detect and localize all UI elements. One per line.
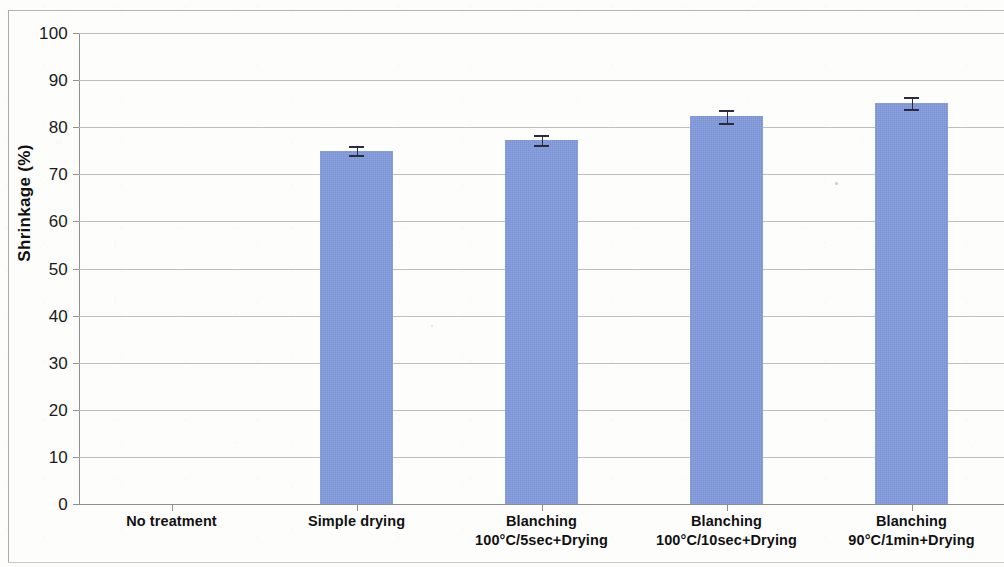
y-axis-tick-label: 60 [6, 213, 68, 230]
y-axis-tick-mark [73, 457, 79, 458]
y-axis-tick-mark [73, 33, 79, 34]
error-bar-cap-lower [534, 145, 549, 147]
y-axis-tick-label: 100 [6, 25, 68, 42]
x-axis-category-labels: No treatmentSimple dryingBlanching100°C/… [79, 512, 1004, 567]
y-axis-tick-label: 40 [6, 307, 68, 324]
error-bar-cap-upper [904, 97, 919, 99]
y-axis-tick-mark [73, 504, 79, 505]
x-axis-category-label: Blanching90°C/1min+Drying [819, 512, 1004, 550]
category-label-line-1: Blanching [449, 512, 634, 531]
x-axis-category-label: Blanching100°C/5sec+Drying [449, 512, 634, 550]
category-label-line-1: Simple drying [264, 512, 449, 531]
gridline [79, 33, 1004, 34]
bar[interactable] [320, 151, 393, 504]
figure-page: Shrinkage (%) 0102030405060708090100 No … [0, 0, 1004, 567]
gridline [79, 80, 1004, 81]
x-axis-tick-mark [727, 504, 728, 511]
y-axis-tick-label: 30 [6, 354, 68, 371]
bar[interactable] [875, 103, 948, 504]
y-axis-tick-mark [73, 316, 79, 317]
x-axis-tick-mark [542, 504, 543, 511]
y-axis-tick-label: 90 [6, 72, 68, 89]
x-axis-tick-mark [172, 504, 173, 511]
plot-area [79, 33, 1004, 504]
error-bar-cap-lower [719, 123, 734, 125]
category-label-line-1: Blanching [634, 512, 819, 531]
y-axis-tick-label: 0 [6, 496, 68, 513]
y-axis-tick-label: 70 [6, 166, 68, 183]
x-axis-category-label: Simple drying [264, 512, 449, 531]
bar[interactable] [505, 140, 578, 504]
error-bar-cap-lower [904, 109, 919, 111]
category-label-line-2: 100°C/10sec+Drying [634, 531, 819, 550]
bar[interactable] [690, 116, 763, 504]
y-axis-tick-label: 20 [6, 401, 68, 418]
scan-artifact [835, 182, 838, 185]
error-bar-cap-upper [719, 110, 734, 112]
y-axis-tick-label: 10 [6, 448, 68, 465]
x-axis-tick-mark [912, 504, 913, 511]
y-axis-tick-mark [73, 269, 79, 270]
y-axis-tick-mark [73, 174, 79, 175]
error-bar-cap-lower [349, 155, 364, 157]
y-axis-tick-mark [73, 363, 79, 364]
y-axis-tick-label: 80 [6, 119, 68, 136]
category-label-line-1: No treatment [79, 512, 264, 531]
error-bar-cap-upper [349, 146, 364, 148]
figure-frame-top [8, 10, 1004, 11]
category-label-line-2: 90°C/1min+Drying [819, 531, 1004, 550]
gridline [79, 127, 1004, 128]
error-bar-cap-upper [534, 135, 549, 137]
y-axis-tick-mark [73, 221, 79, 222]
y-axis-tick-label: 50 [6, 260, 68, 277]
scan-artifact [431, 325, 433, 327]
y-axis-tick-mark [73, 410, 79, 411]
category-label-line-2: 100°C/5sec+Drying [449, 531, 634, 550]
y-axis-tick-mark [73, 127, 79, 128]
y-axis-tick-labels: 0102030405060708090100 [0, 0, 68, 567]
x-axis-tick-mark [357, 504, 358, 511]
x-axis-category-label: Blanching100°C/10sec+Drying [634, 512, 819, 550]
category-label-line-1: Blanching [819, 512, 1004, 531]
x-axis-category-label: No treatment [79, 512, 264, 531]
y-axis-tick-mark [73, 80, 79, 81]
